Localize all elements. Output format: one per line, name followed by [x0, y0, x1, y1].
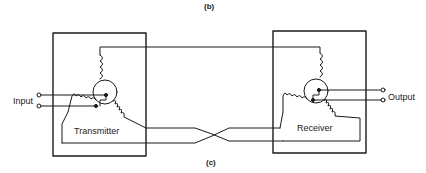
- synchro-diagram: [0, 0, 426, 173]
- input-terminal-1: [37, 93, 41, 97]
- input-terminal-2: [37, 104, 41, 108]
- receiver-coil-top: [320, 53, 323, 77]
- output-terminal-1: [381, 88, 385, 92]
- input-label: Input: [13, 96, 33, 106]
- output-label: Output: [388, 92, 415, 102]
- transmitter-label: Transmitter: [74, 126, 119, 136]
- caption-c: (c): [206, 158, 216, 168]
- transmitter-coil-right: [113, 100, 146, 128]
- receiver-coil-right: [283, 99, 360, 141]
- top-wire: [100, 47, 320, 55]
- output-terminal-2: [381, 98, 385, 102]
- receiver-label: Receiver: [297, 123, 333, 133]
- transmitter-coil-top: [100, 55, 103, 79]
